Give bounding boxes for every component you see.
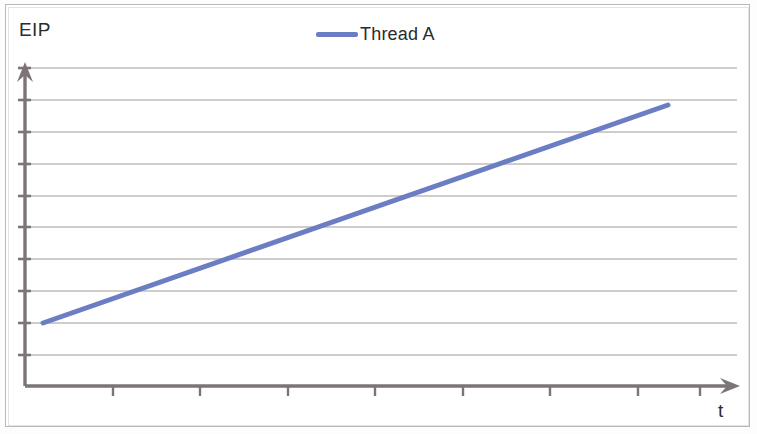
chart-figure: EIP Thread A t: [0, 0, 757, 434]
plot-area: [0, 0, 757, 434]
x-axis-label: t: [718, 401, 723, 420]
axis-lines: [17, 62, 740, 394]
gridlines: [25, 68, 737, 355]
